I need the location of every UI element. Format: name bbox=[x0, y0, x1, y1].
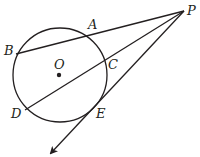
label-e: E bbox=[95, 106, 106, 121]
center-point-o bbox=[57, 73, 61, 77]
label-p: P bbox=[186, 3, 196, 18]
label-d: D bbox=[10, 106, 22, 121]
label-c: C bbox=[108, 57, 118, 72]
geometry-diagram: P A B C D E O bbox=[0, 0, 200, 157]
label-b: B bbox=[3, 43, 14, 58]
label-a: A bbox=[87, 17, 97, 32]
label-o: O bbox=[54, 57, 65, 72]
